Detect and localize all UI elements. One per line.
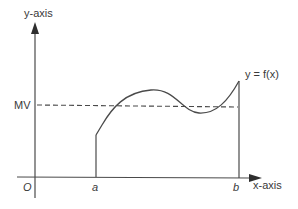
mean-value-diagram: y-axis x-axis O MV a b y = f(x) (0, 0, 298, 209)
x-axis-label: x-axis (253, 179, 282, 191)
function-curve (96, 81, 239, 135)
upper-bound-label: b (233, 181, 239, 193)
function-label: y = f(x) (245, 68, 279, 80)
x-axis (17, 174, 262, 182)
y-axis-arrowhead-icon (31, 22, 39, 34)
y-axis-label: y-axis (24, 7, 53, 19)
y-axis (31, 22, 39, 198)
mean-value-label: MV (14, 99, 31, 111)
lower-bound-label: a (92, 181, 98, 193)
mean-value-line (37, 105, 238, 107)
origin-label: O (23, 181, 32, 193)
